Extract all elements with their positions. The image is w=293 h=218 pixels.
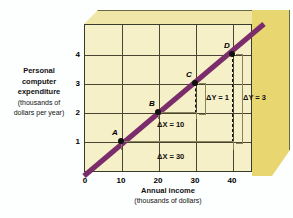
x-axis-title: Annual income (thousands of dollars) <box>84 186 252 206</box>
y-axis-title-line3: expenditure <box>2 87 76 98</box>
y-tick-4: 4 <box>68 50 80 59</box>
data-point-label-b: B <box>149 99 155 108</box>
data-point-b <box>155 109 161 115</box>
bracket-delta-y-3 <box>236 54 243 144</box>
annotation-delta-x-30: ΔX = 30 <box>157 152 184 161</box>
y-tick-1: 1 <box>68 137 80 146</box>
data-point-a <box>118 138 124 144</box>
figure-canvas: ΔX = 10 ΔX = 30 ΔY = 1 ΔY = 3 A B C D 0 … <box>0 0 293 218</box>
y-axis-title-line1: Personal <box>2 66 76 77</box>
bracket-delta-x-30 <box>121 141 234 150</box>
x-axis-title-sub: (thousands of dollars) <box>84 196 252 206</box>
x-tick-0: 0 <box>83 176 87 185</box>
dash-c-vertical <box>195 83 196 113</box>
data-point-c <box>192 80 198 86</box>
y-axis-title-line5: dollars per year) <box>2 108 76 119</box>
y-axis-title-line2: computer <box>2 77 76 88</box>
data-point-d <box>229 51 235 57</box>
bracket-delta-x-10 <box>158 112 197 119</box>
annotation-delta-y-1: ΔY = 1 <box>206 93 229 102</box>
bracket-delta-y-1 <box>199 83 206 115</box>
x-tick-40: 40 <box>228 176 237 185</box>
dash-d-vertical <box>232 54 233 142</box>
x-tick-30: 30 <box>191 176 200 185</box>
annotation-delta-y-3: ΔY = 3 <box>243 93 266 102</box>
y-axis-title: Personal computer expenditure (thousands… <box>2 66 76 119</box>
x-tick-10: 10 <box>117 176 126 185</box>
x-axis-title-main: Annual income <box>84 186 252 196</box>
x-tick-20: 20 <box>154 176 163 185</box>
data-point-label-a: A <box>112 128 118 137</box>
y-axis-title-line4: (thousands of <box>2 98 76 109</box>
data-point-label-d: D <box>224 41 230 50</box>
annotation-delta-x-10: ΔX = 10 <box>157 120 184 129</box>
data-point-label-c: C <box>186 70 192 79</box>
